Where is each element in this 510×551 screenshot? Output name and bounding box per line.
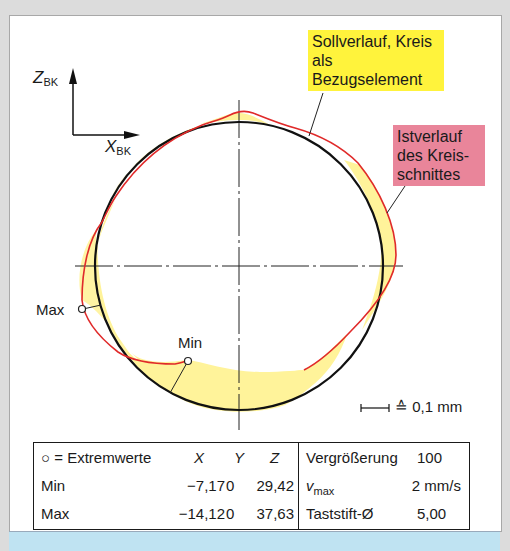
row-min-label: Min [41, 477, 65, 494]
col-header-z: Z [270, 449, 279, 466]
extreme-values-section: ○ = Extremwerte X Y Z Min −7,17 0 29,42 … [34, 443, 299, 529]
magnification-value: 100 [417, 449, 442, 466]
scale-bar [361, 404, 389, 412]
legend-extreme-values: ○ = Extremwerte [41, 449, 151, 466]
istverlauf-callout: Istverlauf des Kreis-schnittes [393, 125, 485, 186]
row-min-x: −7,17 [187, 477, 225, 494]
max-point-marker [79, 306, 86, 313]
coordinate-axes [69, 68, 140, 139]
max-label: Max [36, 301, 64, 318]
stylus-diameter-value: 5,00 [417, 505, 446, 522]
vmax-label: vmax [306, 477, 334, 497]
stylus-diameter-label: Taststift-Ø [306, 505, 374, 522]
sollverlauf-leader [309, 93, 323, 136]
magnification-label: Vergrößerung [306, 449, 398, 466]
z-axis-label: ZBK [33, 68, 58, 88]
row-max-y: 0 [226, 505, 234, 522]
settings-section: Vergrößerung 100 vmax 2 mm/s Taststift-Ø… [299, 443, 469, 529]
measurement-table: ○ = Extremwerte X Y Z Min −7,17 0 29,42 … [33, 442, 470, 530]
deviation-area-right [344, 160, 396, 330]
istverlauf-leader [387, 186, 405, 213]
row-max-label: Max [41, 505, 69, 522]
min-point-marker [185, 358, 192, 365]
row-min-y: 0 [226, 477, 234, 494]
min-label: Min [178, 334, 202, 351]
col-header-y: Y [234, 449, 244, 466]
col-header-x: X [194, 449, 204, 466]
x-axis-label: XBK [105, 137, 131, 157]
vmax-value: 2 mm/s [412, 477, 461, 494]
row-max-z: 37,63 [256, 505, 294, 522]
row-min-z: 29,42 [256, 477, 294, 494]
row-max-x: −14,12 [179, 505, 225, 522]
scale-label: ≙ 0,1 mm [395, 398, 462, 416]
sollverlauf-callout: Sollverlauf, Kreis als Bezugselement [308, 30, 444, 91]
